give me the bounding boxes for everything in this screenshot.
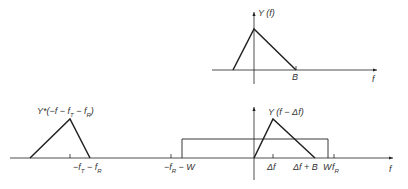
mirror-label: Y*(−f − fT − fR) — [37, 107, 94, 118]
tick-label-neg-fT-fR: −fT − fR — [73, 163, 102, 174]
shifted-triangle — [254, 119, 315, 158]
top-triangle — [233, 29, 296, 70]
tick-label-W: W — [323, 163, 332, 172]
tick-label-delta-f-B: Δf + B — [293, 163, 318, 172]
tick-label-B: B — [292, 73, 298, 82]
tick-label-f-R: fR — [332, 163, 339, 174]
mirror-triangle — [30, 119, 90, 158]
bottom-xlabel: f — [389, 165, 392, 174]
tick-label-delta-f: Δf — [267, 163, 276, 172]
top-xlabel: f — [372, 75, 375, 84]
top-ylabel: Y (f) — [258, 9, 275, 18]
tick-label-neg-fR-W: −fR − W — [164, 163, 195, 174]
shift-label: Y (f − Δf) — [268, 108, 304, 117]
spectrum-diagram: Y (f) B f Y*(−f − fT − fR) Y (f − Δf) −f… — [0, 0, 408, 189]
diagram-graphics — [0, 0, 408, 189]
